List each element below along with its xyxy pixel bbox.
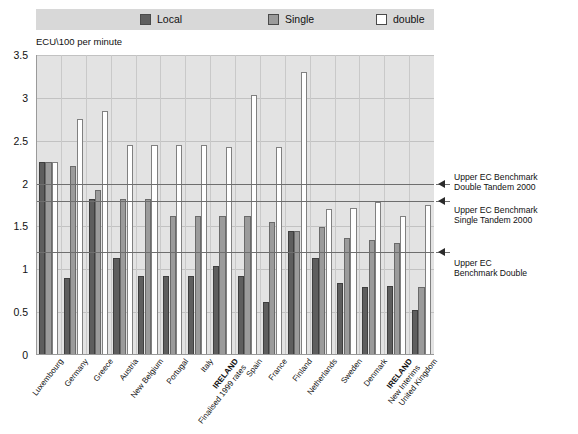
x-tick-label: France bbox=[267, 357, 290, 382]
bar-group bbox=[160, 55, 185, 355]
x-tick-label: Sweden bbox=[339, 357, 364, 386]
chart-screenshot: LocalSingledouble ECU\100 per minute 00.… bbox=[0, 0, 578, 434]
bar-double bbox=[52, 162, 58, 355]
bar-double bbox=[226, 147, 232, 355]
bar-single bbox=[195, 216, 201, 355]
bar-single bbox=[418, 287, 424, 355]
y-tick-label: 1 bbox=[22, 263, 28, 275]
bar-local bbox=[113, 258, 119, 355]
x-tick-label: Luxembourg bbox=[31, 357, 66, 398]
bar-local bbox=[238, 276, 244, 355]
bar-local bbox=[188, 276, 194, 355]
y-axis-tick-labels: 00.511.522.533.5 bbox=[0, 55, 32, 355]
benchmark-arrow-icon bbox=[438, 180, 445, 188]
benchmark-annotation-text: Upper EC BenchmarkSingle Tandem 2000 bbox=[454, 205, 578, 225]
y-axis-title: ECU\100 per minute bbox=[36, 36, 122, 47]
legend-swatch-icon bbox=[376, 14, 387, 25]
bar-group bbox=[409, 55, 434, 355]
benchmark-line bbox=[36, 184, 434, 185]
x-tick-label: Finland bbox=[291, 357, 315, 384]
y-axis-line bbox=[36, 55, 37, 355]
bar-double bbox=[400, 216, 406, 355]
bar-double bbox=[350, 208, 356, 355]
bar-group bbox=[185, 55, 210, 355]
plot-area bbox=[36, 55, 434, 355]
bar-double bbox=[251, 95, 257, 355]
y-tick-label: 2 bbox=[22, 178, 28, 190]
bar-local bbox=[89, 199, 95, 355]
benchmark-line bbox=[36, 201, 434, 202]
x-tick-label: Italy bbox=[199, 357, 216, 374]
legend-item-double: double bbox=[376, 9, 425, 30]
legend-label: double bbox=[393, 14, 425, 25]
bar-local bbox=[337, 283, 343, 355]
benchmark-line bbox=[36, 252, 434, 253]
bar-single bbox=[219, 216, 225, 355]
bar-double bbox=[425, 205, 431, 355]
bar-group bbox=[61, 55, 86, 355]
bar-double bbox=[77, 119, 83, 355]
x-tick-label: Austria bbox=[118, 357, 141, 382]
bar-local bbox=[387, 286, 393, 355]
bar-local bbox=[64, 278, 70, 355]
benchmark-annotation-text: Upper EC BenchmarkDouble Tandem 2000 bbox=[454, 172, 578, 192]
benchmark-annotation-text: Upper ECBenchmark Double bbox=[454, 258, 578, 278]
bar-double bbox=[375, 202, 381, 355]
x-tick-label: Greece bbox=[92, 357, 116, 384]
y-tick-label: 0.5 bbox=[13, 306, 28, 318]
x-tick-label: Spain bbox=[245, 357, 265, 379]
benchmark-annotations: Upper EC BenchmarkDouble Tandem 2000Uppe… bbox=[436, 55, 578, 355]
bar-single bbox=[344, 238, 350, 355]
bar-local bbox=[362, 287, 368, 355]
bar-group bbox=[359, 55, 384, 355]
bar-single bbox=[120, 199, 126, 355]
y-tick-label: 2.5 bbox=[13, 135, 28, 147]
bar-group bbox=[210, 55, 235, 355]
bar-double bbox=[276, 147, 282, 355]
bar-local bbox=[163, 276, 169, 355]
bar-single bbox=[70, 166, 76, 355]
bar-single bbox=[369, 240, 375, 355]
bar-single bbox=[394, 243, 400, 355]
bar-single bbox=[95, 190, 101, 355]
bar-group bbox=[260, 55, 285, 355]
bar-group bbox=[235, 55, 260, 355]
bar-group bbox=[285, 55, 310, 355]
x-axis-tick-labels: LuxembourgGermanyGreeceAustriaNew Belgiu… bbox=[36, 357, 434, 434]
x-tick-label: IRELANDFinalised 1999 rates bbox=[188, 357, 247, 425]
bar-local bbox=[412, 310, 418, 355]
y-tick-label: 3.5 bbox=[13, 49, 28, 61]
y-tick-label: 1.5 bbox=[13, 220, 28, 232]
bar-single bbox=[145, 199, 151, 355]
bar-local bbox=[213, 266, 219, 355]
x-axis-line bbox=[36, 354, 434, 355]
x-tick-label: Germany bbox=[63, 357, 91, 389]
bar-local bbox=[263, 302, 269, 355]
y-tick-label: 3 bbox=[22, 92, 28, 104]
bar-local bbox=[288, 231, 294, 355]
bar-double bbox=[176, 145, 182, 355]
bar-group bbox=[136, 55, 161, 355]
bar-double bbox=[151, 145, 157, 355]
bar-double bbox=[127, 145, 133, 355]
bar-local bbox=[138, 276, 144, 355]
legend-label: Local bbox=[157, 14, 182, 25]
bar-single bbox=[319, 227, 325, 355]
bar-group bbox=[111, 55, 136, 355]
benchmark-arrow-icon bbox=[438, 197, 445, 205]
legend-swatch-icon bbox=[268, 14, 279, 25]
bar-double bbox=[201, 145, 207, 355]
chart-legend: LocalSingledouble bbox=[36, 9, 434, 30]
bar-local bbox=[312, 258, 318, 355]
legend-swatch-icon bbox=[140, 14, 151, 25]
bar-group bbox=[86, 55, 111, 355]
legend-label: Single bbox=[285, 14, 314, 25]
bar-double bbox=[301, 72, 307, 355]
x-tick-label: Portugal bbox=[164, 357, 190, 386]
bar-group bbox=[36, 55, 61, 355]
bar-single bbox=[294, 231, 300, 355]
bar-group bbox=[335, 55, 360, 355]
bar-double bbox=[326, 209, 332, 355]
y-tick-label: 0 bbox=[22, 349, 28, 361]
legend-item-local: Local bbox=[140, 9, 182, 30]
